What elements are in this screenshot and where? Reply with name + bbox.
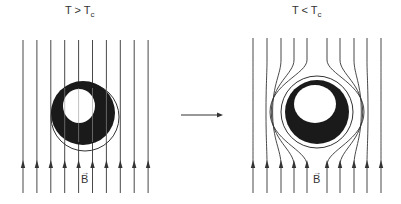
field-arrow-icon <box>292 160 296 168</box>
normal-field-vector-label: → B <box>81 173 88 185</box>
field-arrow-icon <box>251 160 255 168</box>
field-arrow-icon <box>265 160 269 168</box>
superconducting-state-label: T < Tc <box>292 4 322 19</box>
field-arrow-icon <box>49 160 53 168</box>
field-arrow-icon <box>352 160 356 168</box>
field-arrow-icon <box>63 160 67 168</box>
diagram-canvas <box>0 0 401 204</box>
field-arrow-icon <box>76 160 80 168</box>
normal-state-label: T > Tc <box>65 4 95 19</box>
field-arrow-icon <box>338 160 342 168</box>
field-line <box>354 38 361 193</box>
field-line <box>273 38 281 193</box>
field-arrow-icon <box>279 160 283 168</box>
sphere-highlight <box>294 85 336 123</box>
label-text: T < T <box>292 4 318 16</box>
field-arrow-icon <box>379 160 383 168</box>
field-arrow-icon <box>90 160 94 168</box>
field-line <box>367 38 368 193</box>
field-arrow-icon <box>325 160 329 168</box>
superconducting-sphere <box>281 76 353 148</box>
field-arrow-icon <box>365 160 369 168</box>
meissner-effect-diagram: T > Tc T < Tc → B → B <box>0 0 401 204</box>
field-arrow-icon <box>35 160 39 168</box>
vector-arrow-icon: → <box>313 168 320 177</box>
vector-arrow-icon: → <box>81 168 88 177</box>
sphere-highlight <box>63 89 95 123</box>
field-line <box>266 38 267 193</box>
label-text: T > T <box>65 4 91 16</box>
field-arrow-icon <box>305 160 309 168</box>
field-arrow-icon <box>118 160 122 168</box>
field-arrow-icon <box>146 160 150 168</box>
label-subscript: c <box>318 10 322 19</box>
field-arrow-icon <box>21 160 25 168</box>
field-arrow-icon <box>104 160 108 168</box>
label-subscript: c <box>91 10 95 19</box>
superconducting-field-vector-label: → B <box>313 173 320 185</box>
normal-state-sphere <box>51 81 119 151</box>
field-arrow-icon <box>132 160 136 168</box>
